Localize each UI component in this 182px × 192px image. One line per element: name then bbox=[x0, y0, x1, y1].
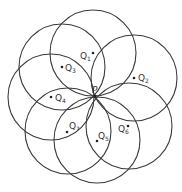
circle-group bbox=[8, 10, 177, 183]
label-subscript: 4 bbox=[62, 97, 66, 104]
label-q2: Q2 bbox=[138, 73, 149, 84]
label-q4: Q4 bbox=[55, 93, 66, 104]
label-subscript: 1 bbox=[87, 55, 91, 62]
label-subscript: 3 bbox=[72, 67, 76, 74]
center-dot-q1 bbox=[92, 52, 95, 55]
label-q3: Q3 bbox=[65, 63, 76, 74]
circles-through-point-diagram: Q1Q2Q3Q4Q5Q6Q7 P bbox=[0, 0, 182, 192]
label-q7: Q7 bbox=[69, 121, 80, 132]
diagram-canvas: Q1Q2Q3Q4Q5Q6Q7 P bbox=[0, 0, 182, 192]
label-subscript: 6 bbox=[125, 128, 129, 135]
label-subscript: 2 bbox=[145, 77, 149, 84]
center-dot-q2 bbox=[133, 77, 136, 80]
point-p-label: P bbox=[92, 85, 98, 95]
label-q1: Q1 bbox=[80, 51, 91, 62]
label-subscript: 7 bbox=[76, 125, 80, 132]
label-group: Q1Q2Q3Q4Q5Q6Q7 bbox=[55, 51, 149, 142]
center-dot-q3 bbox=[61, 66, 64, 69]
center-dot-q4 bbox=[50, 96, 53, 99]
label-subscript: 5 bbox=[105, 135, 109, 142]
center-dot-q7 bbox=[66, 131, 69, 134]
label-q5: Q5 bbox=[98, 131, 109, 142]
center-dot-q6 bbox=[127, 125, 130, 128]
